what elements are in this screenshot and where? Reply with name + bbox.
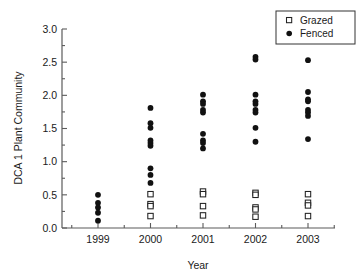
data-point-fenced: [200, 146, 206, 152]
data-point-fenced: [95, 210, 101, 216]
data-point-fenced: [148, 125, 154, 131]
data-point-fenced: [200, 131, 206, 137]
data-point-grazed: [253, 207, 258, 212]
legend-marker-grazed-icon: [287, 18, 292, 23]
data-point-fenced: [253, 92, 259, 98]
x-tick-label: 2003: [296, 233, 320, 245]
data-point-fenced: [253, 101, 259, 107]
legend-label-grazed: Grazed: [300, 15, 333, 26]
data-point-fenced: [253, 57, 259, 63]
data-point-fenced: [148, 180, 154, 186]
y-tick-label: 1.0: [42, 155, 57, 167]
data-point-grazed: [253, 214, 258, 219]
data-point-fenced: [148, 165, 154, 171]
y-tick-label: 1.5: [42, 122, 57, 134]
data-point-fenced: [200, 110, 206, 116]
data-point-fenced: [305, 113, 311, 119]
legend: Grazed Fenced: [276, 11, 355, 44]
data-point-grazed: [200, 203, 205, 208]
x-tick-label: 1999: [86, 233, 110, 245]
x-tick-label: 2001: [191, 233, 215, 245]
data-point-fenced: [253, 139, 259, 145]
data-point-grazed: [148, 203, 153, 208]
data-point-fenced: [253, 110, 259, 116]
data-point-fenced: [253, 125, 259, 131]
data-point-fenced: [305, 98, 311, 104]
x-axis-title: Year: [187, 259, 209, 271]
data-point-fenced: [200, 101, 206, 107]
data-point-fenced: [305, 136, 311, 142]
data-point-fenced: [148, 105, 154, 111]
y-tick-label: 0.5: [42, 189, 57, 201]
legend-label-fenced: Fenced: [300, 28, 333, 39]
data-point-fenced: [95, 218, 101, 224]
data-point-fenced: [95, 192, 101, 198]
plot-svg: 0.00.51.01.52.02.53.0 199920002001200220…: [0, 0, 364, 279]
data-point-grazed: [148, 213, 153, 218]
data-point-grazed: [253, 192, 258, 197]
scatter-plot-figure: 0.00.51.01.52.02.53.0 199920002001200220…: [0, 0, 364, 279]
data-point-fenced: [148, 143, 154, 149]
y-tick-label: 2.0: [42, 89, 57, 101]
data-point-fenced: [200, 140, 206, 146]
data-point-grazed: [305, 203, 310, 208]
x-tick-label: 2000: [139, 233, 163, 245]
data-point-fenced: [305, 57, 311, 63]
y-axis-title: DCA 1 Plant Community: [12, 71, 24, 185]
y-tick-label: 3.0: [42, 23, 57, 35]
data-point-grazed: [305, 213, 310, 218]
y-tick-label: 0.0: [42, 222, 57, 234]
data-point-fenced: [148, 172, 154, 178]
data-point-fenced: [200, 92, 206, 98]
data-point-fenced: [305, 89, 311, 95]
legend-marker-fenced-icon: [286, 31, 292, 37]
data-point-grazed: [148, 191, 153, 196]
x-tick-label: 2002: [244, 233, 268, 245]
data-point-grazed: [305, 191, 310, 196]
data-point-grazed: [200, 191, 205, 196]
y-tick-label: 2.5: [42, 56, 57, 68]
data-point-grazed: [200, 213, 205, 218]
data-point-fenced: [95, 205, 101, 211]
